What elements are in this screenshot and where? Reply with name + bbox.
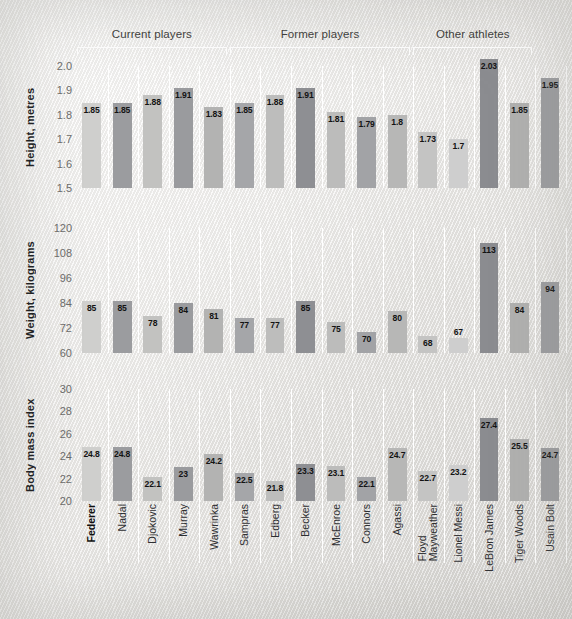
y-tick-label: 120 bbox=[54, 223, 72, 234]
y-tick-label: 24 bbox=[60, 451, 72, 462]
group-label: Other athletes bbox=[413, 28, 532, 40]
bar-value-label: 75 bbox=[327, 324, 346, 334]
bar-value-label: 67 bbox=[449, 327, 468, 337]
axis-title-0: Height, metres bbox=[24, 66, 36, 188]
athlete-name-8: McEnroe bbox=[331, 504, 342, 546]
bar[interactable]: 1.7 bbox=[449, 139, 468, 188]
bar[interactable]: 70 bbox=[357, 332, 376, 353]
y-tick-label: 108 bbox=[54, 248, 72, 259]
athlete-name-12: Lionel Messi bbox=[454, 504, 465, 562]
bar[interactable]: 22.1 bbox=[357, 477, 376, 501]
bar-value-label: 1.85 bbox=[510, 105, 529, 115]
y-axis-ticks-0: 2.01.91.81.71.61.5 bbox=[42, 66, 72, 188]
bar[interactable]: 85 bbox=[113, 301, 132, 353]
bar-value-label: 1.7 bbox=[449, 141, 468, 151]
athlete-name-column: Sampras bbox=[230, 501, 262, 563]
athlete-name-3: Murray bbox=[178, 504, 189, 537]
bar-value-label: 1.79 bbox=[357, 119, 376, 129]
bar[interactable]: 81 bbox=[204, 309, 223, 353]
athlete-name-4: Wawrinka bbox=[209, 504, 220, 550]
bar[interactable]: 68 bbox=[418, 336, 437, 353]
bar-value-label: 2.03 bbox=[480, 61, 499, 71]
bar[interactable]: 22.5 bbox=[235, 473, 254, 501]
y-tick-label: 96 bbox=[60, 273, 72, 284]
y-axis-ticks-2: 302826242220 bbox=[42, 389, 72, 501]
bar[interactable]: 1.85 bbox=[113, 103, 132, 188]
bar-value-label: 24.8 bbox=[82, 449, 101, 459]
athlete-name-0: Federer bbox=[87, 504, 98, 543]
bar[interactable]: 23.1 bbox=[327, 466, 346, 501]
athlete-name-column: Becker bbox=[291, 501, 323, 563]
bar-value-label: 1.95 bbox=[541, 80, 560, 90]
bar[interactable]: 85 bbox=[82, 301, 101, 353]
bar[interactable]: 1.81 bbox=[327, 112, 346, 188]
bar[interactable]: 23.2 bbox=[449, 465, 468, 501]
bar-value-label: 1.88 bbox=[266, 97, 285, 107]
group-header-0: Current players bbox=[77, 28, 227, 58]
bar[interactable]: 1.83 bbox=[204, 107, 223, 188]
bar[interactable]: 1.91 bbox=[174, 88, 193, 188]
y-tick-label: 72 bbox=[60, 323, 72, 334]
bar[interactable]: 24.8 bbox=[82, 447, 101, 501]
bar[interactable]: 1.95 bbox=[541, 78, 560, 188]
bar[interactable]: 23 bbox=[174, 467, 193, 501]
athlete-name-column: Agassi bbox=[383, 501, 415, 563]
athlete-name-column: Federer bbox=[77, 501, 109, 563]
bar[interactable]: 22.7 bbox=[418, 471, 437, 501]
group-bracket bbox=[413, 47, 532, 55]
bar[interactable]: 113 bbox=[480, 243, 499, 353]
bar-value-label: 85 bbox=[296, 303, 315, 313]
athlete-name-column: LeBron James bbox=[474, 501, 506, 563]
athlete-name-column: Wawrinka bbox=[199, 501, 231, 563]
bar[interactable]: 2.03 bbox=[480, 59, 499, 188]
bar-value-label: 1.8 bbox=[388, 117, 407, 127]
bar[interactable]: 24.7 bbox=[388, 448, 407, 501]
bar[interactable]: 21.8 bbox=[266, 481, 285, 501]
group-bracket bbox=[77, 47, 227, 55]
bar[interactable]: 1.85 bbox=[510, 103, 529, 188]
bar[interactable]: 1.85 bbox=[235, 103, 254, 188]
bar[interactable]: 24.2 bbox=[204, 454, 223, 501]
panel-2: Body mass index30282624222024.824.822.12… bbox=[0, 389, 572, 501]
bar[interactable]: 1.91 bbox=[296, 88, 315, 188]
athlete-name-6: Edberg bbox=[270, 504, 281, 538]
bar[interactable]: 25.5 bbox=[510, 439, 529, 501]
bar-value-label: 23.3 bbox=[296, 466, 315, 476]
y-tick-label: 22 bbox=[60, 473, 72, 484]
bar-value-label: 23.1 bbox=[327, 468, 346, 478]
bar[interactable]: 27.4 bbox=[480, 418, 499, 501]
bar-value-label: 77 bbox=[266, 320, 285, 330]
bar[interactable]: 1.73 bbox=[418, 132, 437, 188]
bar[interactable]: 67 bbox=[449, 338, 468, 353]
bar[interactable]: 24.8 bbox=[113, 447, 132, 501]
bar[interactable]: 94 bbox=[541, 282, 560, 353]
y-tick-label: 1.9 bbox=[57, 85, 72, 96]
bar[interactable]: 1.8 bbox=[388, 115, 407, 188]
bar[interactable]: 24.7 bbox=[541, 448, 560, 501]
bar[interactable]: 84 bbox=[174, 303, 193, 353]
bar[interactable]: 23.3 bbox=[296, 464, 315, 501]
bar[interactable]: 77 bbox=[266, 318, 285, 353]
athlete-name-5: Sampras bbox=[240, 504, 251, 546]
bar[interactable]: 80 bbox=[388, 311, 407, 353]
bar-value-label: 1.88 bbox=[143, 97, 162, 107]
bar[interactable]: 1.88 bbox=[266, 95, 285, 188]
bar[interactable]: 1.79 bbox=[357, 117, 376, 188]
bar-value-label: 77 bbox=[235, 320, 254, 330]
bar-value-label: 22.5 bbox=[235, 475, 254, 485]
bar[interactable]: 22.1 bbox=[143, 477, 162, 501]
axis-title-1: Weight, kilograms bbox=[24, 228, 36, 353]
bar[interactable]: 1.85 bbox=[82, 103, 101, 188]
athlete-name-14: Tiger Woods bbox=[515, 504, 526, 563]
athlete-name-column: Djokovic bbox=[138, 501, 170, 563]
bar[interactable]: 77 bbox=[235, 318, 254, 353]
bar[interactable]: 78 bbox=[143, 316, 162, 354]
plot-area-2: 24.824.822.12324.222.521.823.323.122.124… bbox=[77, 389, 566, 501]
bar[interactable]: 1.88 bbox=[143, 95, 162, 188]
bar-value-label: 84 bbox=[174, 305, 193, 315]
bar[interactable]: 75 bbox=[327, 322, 346, 353]
bar[interactable]: 85 bbox=[296, 301, 315, 353]
bar-value-label: 1.81 bbox=[327, 114, 346, 124]
bar-value-label: 1.91 bbox=[296, 90, 315, 100]
bar[interactable]: 84 bbox=[510, 303, 529, 353]
